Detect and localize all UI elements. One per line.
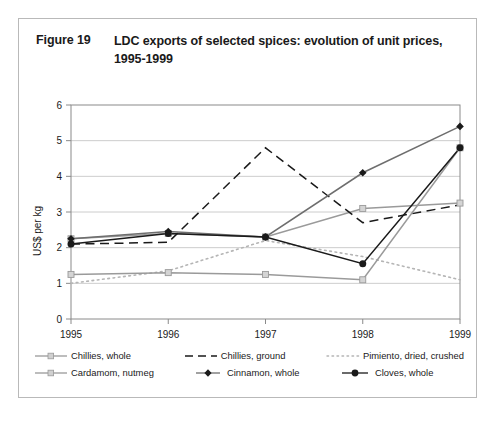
legend-label: Cardamom, nutmeg — [71, 367, 154, 378]
line-chart: 0123456 19951996199719981999 US$ per kg — [19, 19, 478, 399]
legend-row: Cardamom, nutmeg Cinnamon, whole — [34, 364, 464, 381]
legend-swatch-chillies-whole — [34, 350, 68, 362]
data-point — [359, 260, 366, 267]
data-point — [360, 205, 366, 211]
svg-text:1998: 1998 — [352, 329, 375, 340]
legend-swatch-pimiento — [326, 350, 360, 362]
series-markers — [67, 123, 464, 283]
data-point — [262, 233, 269, 240]
svg-text:6: 6 — [56, 100, 62, 111]
data-point — [68, 271, 74, 277]
data-point — [263, 271, 269, 277]
legend-swatch-cloves-whole — [338, 367, 372, 379]
svg-text:1999: 1999 — [449, 329, 472, 340]
legend-label: Chillies, ground — [221, 350, 286, 361]
figure-card: Figure 19 LDC exports of selected spices… — [18, 18, 477, 398]
svg-text:3: 3 — [56, 207, 62, 218]
gridlines — [66, 105, 460, 319]
legend-item-cardamom-nutmeg[interactable]: Cardamom, nutmeg — [34, 364, 190, 381]
data-point — [456, 123, 464, 131]
legend-label: Chillies, whole — [71, 350, 131, 361]
series-line-1 — [71, 148, 460, 244]
x-axis-tick-labels: 19951996199719981999 — [60, 329, 472, 340]
svg-text:1995: 1995 — [60, 329, 83, 340]
legend-item-chillies-ground[interactable]: Chillies, ground — [184, 347, 326, 364]
legend-row: Chillies, whole Chillies, ground Pimient… — [34, 347, 464, 364]
series-line-3 — [71, 148, 460, 280]
svg-text:2: 2 — [56, 242, 62, 253]
legend-label: Cinnamon, whole — [227, 367, 299, 378]
svg-text:4: 4 — [56, 171, 62, 182]
legend-label: Cloves, whole — [375, 367, 433, 378]
data-point — [457, 200, 463, 206]
data-point — [165, 270, 171, 276]
legend-item-chillies-whole[interactable]: Chillies, whole — [34, 347, 184, 364]
data-point — [360, 277, 366, 283]
legend-swatch-cardamom-nutmeg — [34, 367, 68, 379]
axes — [71, 105, 460, 324]
svg-text:1996: 1996 — [157, 329, 180, 340]
svg-text:1997: 1997 — [254, 329, 277, 340]
chart-legend: Chillies, whole Chillies, ground Pimient… — [34, 347, 464, 381]
legend-swatch-chillies-ground — [184, 350, 218, 362]
svg-text:5: 5 — [56, 135, 62, 146]
data-point — [165, 230, 172, 237]
y-axis-tick-labels: 0123456 — [56, 100, 62, 325]
legend-item-pimiento[interactable]: Pimiento, dried, crushed — [326, 347, 464, 364]
svg-text:0: 0 — [56, 314, 62, 325]
data-point — [457, 144, 464, 151]
legend-label: Pimiento, dried, crushed — [363, 350, 464, 361]
data-point — [68, 241, 75, 248]
legend-item-cinnamon-whole[interactable]: Cinnamon, whole — [190, 364, 338, 381]
svg-text:1: 1 — [56, 278, 62, 289]
legend-swatch-cinnamon-whole — [190, 367, 224, 379]
series-line-4 — [71, 126, 460, 238]
legend-item-cloves-whole[interactable]: Cloves, whole — [338, 364, 433, 381]
chart-plot-area: 0123456 19951996199719981999 US$ per kg — [19, 19, 478, 399]
data-point — [359, 169, 367, 177]
series-lines — [71, 126, 460, 283]
y-axis-label: US$ per kg — [32, 206, 43, 256]
